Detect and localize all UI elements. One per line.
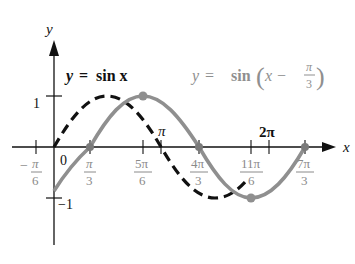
svg-text:x −: x − [264,67,287,84]
label-sin-x-minus-pi-3: y = sin ( x − π 3 ) [190,60,325,91]
sine-graph: x y 1 −1 0 − π 6 π 3 5π 6 π [0,0,355,264]
svg-text:3: 3 [86,173,93,188]
svg-text:6: 6 [32,173,39,188]
svg-text:π: π [306,60,313,74]
label-sin-x: y = sin x [64,67,128,85]
svg-text:π: π [32,156,39,171]
point-4pi-3 [195,143,203,151]
svg-text:6: 6 [139,173,146,188]
point-11pi-6-min [247,194,256,203]
svg-text:): ) [316,62,325,91]
svg-text:y: y [190,67,200,85]
x-tick-label-2pi: 2π [259,124,276,140]
x-tick-label-7pi-3: 7π 3 [296,156,314,188]
x-axis-arrow-icon [322,142,336,152]
svg-text:y: y [64,67,74,85]
svg-text:4π: 4π [191,156,205,171]
svg-text:6: 6 [248,173,255,188]
svg-text:(: ( [256,62,265,91]
svg-text:sin: sin [231,67,251,84]
svg-text:3: 3 [306,77,312,91]
svg-text:7π: 7π [297,156,311,171]
svg-text:5π: 5π [135,156,149,171]
svg-text:11π: 11π [241,156,261,171]
point-7pi-3 [301,143,309,151]
y-axis-arrow-icon [49,40,59,56]
y-axis-label: y [44,21,53,37]
svg-text:sin x: sin x [96,67,128,84]
svg-text:=: = [79,67,88,84]
origin-label: 0 [60,153,67,168]
svg-text:3: 3 [195,173,202,188]
y-tick-label-neg1: −1 [58,197,73,212]
x-tick-label-5pi-6: 5π 6 [134,156,152,188]
svg-text:π: π [86,156,93,171]
x-tick-label-pi-3: π 3 [84,156,96,188]
x-tick-label-neg-pi-6: − π 6 [20,156,42,188]
y-tick-label-1: 1 [33,96,40,111]
x-axis-label: x [342,139,350,155]
svg-text:3: 3 [301,173,308,188]
point-5pi-6-max [139,92,148,101]
x-tick-label-pi: π [158,123,166,139]
svg-text:−: − [20,158,28,173]
svg-text:=: = [205,67,214,84]
point-pi-3 [86,143,94,151]
